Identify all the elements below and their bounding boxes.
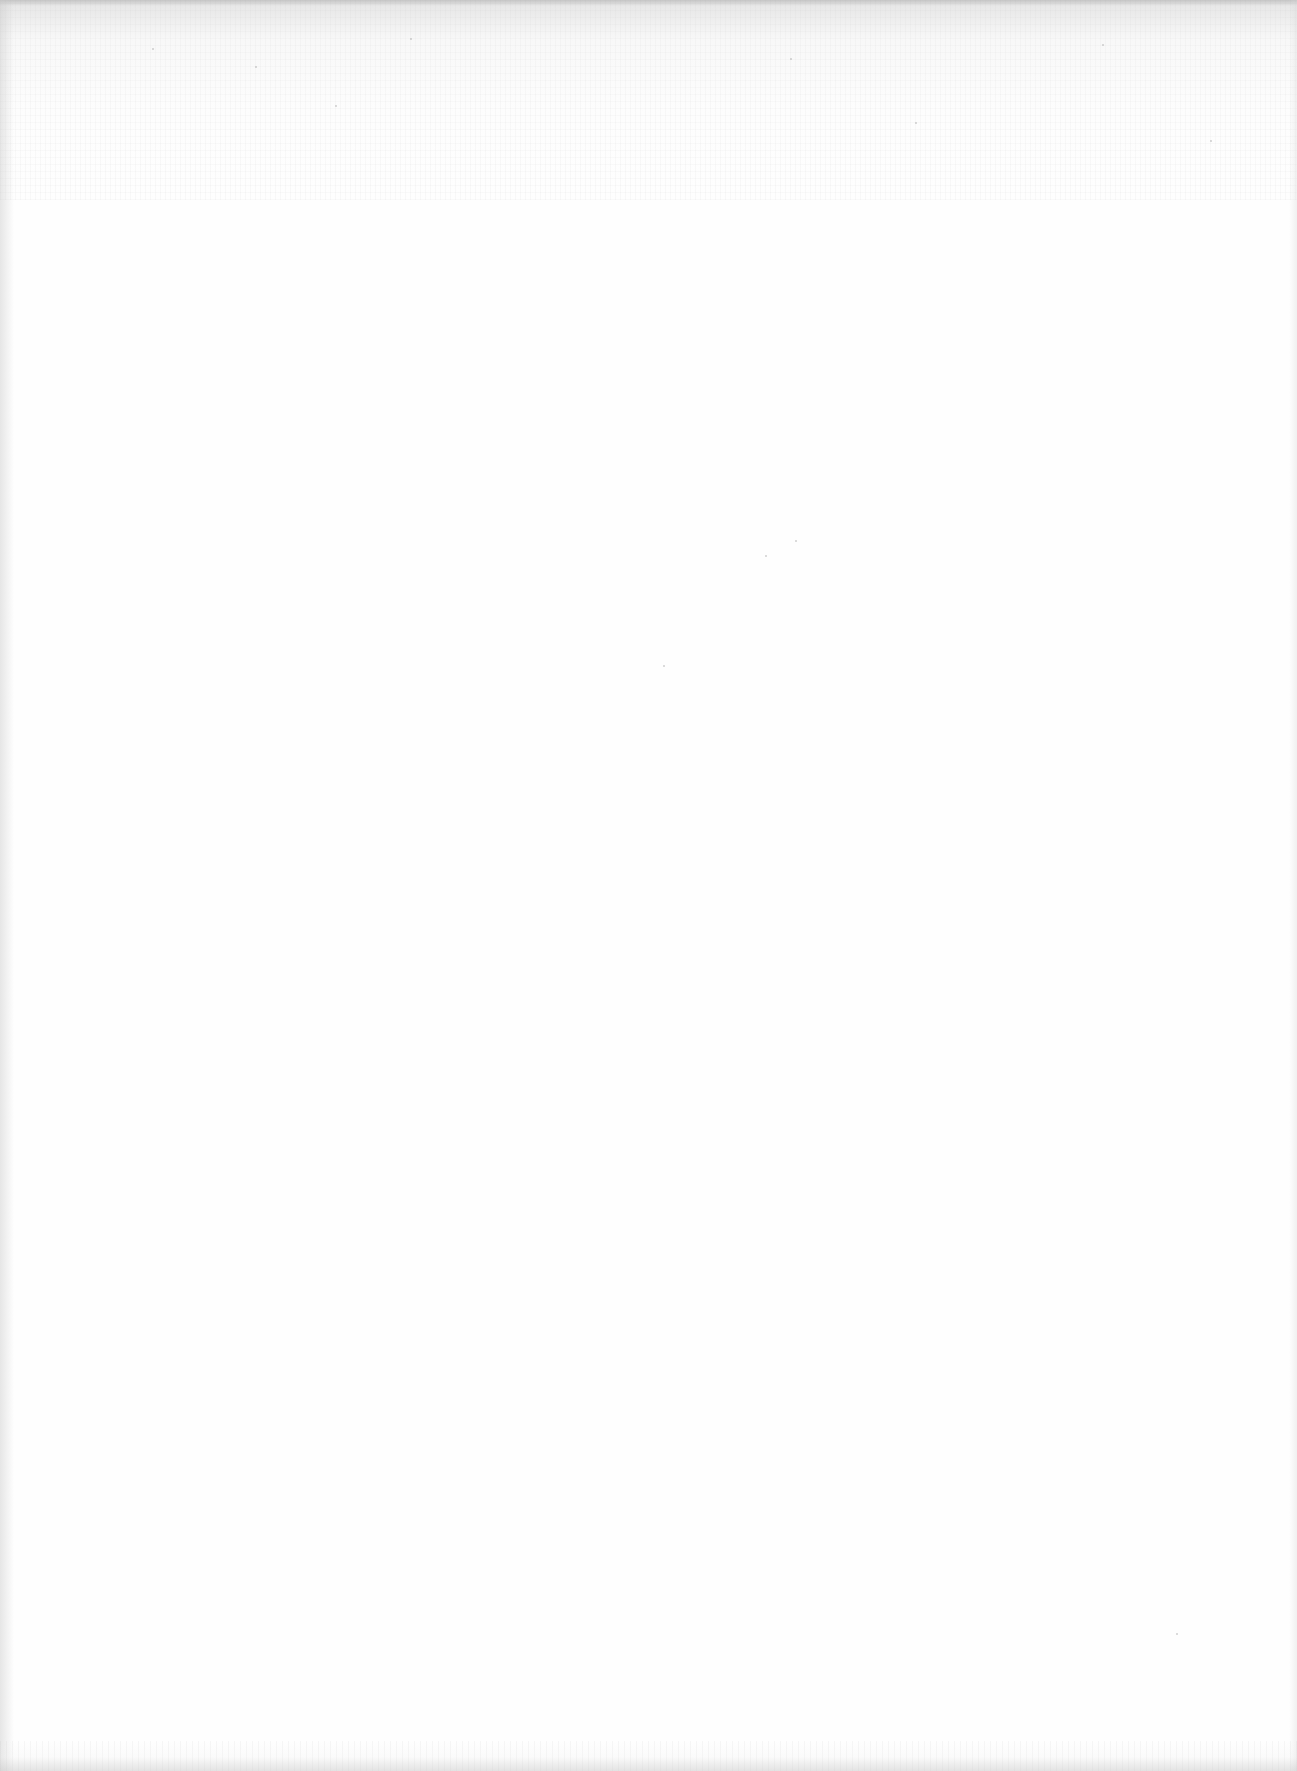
scan-shadow-left-edge [0,0,14,1771]
scan-speck [152,48,154,50]
scan-speck [790,58,792,60]
scan-speck [915,122,917,124]
scan-speck [410,38,412,40]
scan-shadow-right-edge [1289,0,1297,1771]
scan-speck [255,66,257,68]
scan-speck [335,105,337,107]
scan-speck [795,540,797,542]
scan-noise-top-edge [0,0,1297,200]
scan-noise-bottom-edge [0,1741,1297,1771]
scan-speck [1102,44,1104,46]
scan-speck [765,555,767,557]
scan-speck [1176,1633,1178,1635]
scan-speck [663,665,665,667]
scan-speck [1210,140,1212,142]
blank-scanned-page [0,0,1297,1771]
